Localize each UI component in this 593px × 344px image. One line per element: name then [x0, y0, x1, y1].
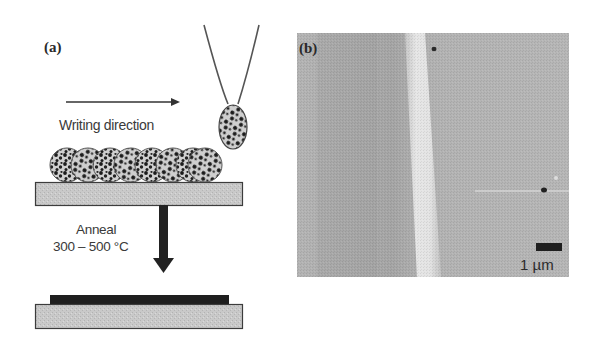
annealed-film — [50, 295, 229, 305]
anneal-arrow-icon — [153, 205, 174, 273]
writing-direction-label: Writing direction — [59, 118, 154, 132]
writing-direction-arrow-icon — [66, 98, 180, 106]
panel-b-micrograph — [297, 33, 569, 277]
ink-droplet-icon — [219, 105, 247, 149]
pen-tip-icon — [204, 25, 259, 104]
defect-dot — [541, 188, 547, 193]
deposited-particle-row — [50, 148, 222, 182]
scale-bar — [536, 243, 562, 251]
scale-bar-label: 1 µm — [520, 257, 554, 272]
anneal-temperature-label: 300 – 500 °C — [53, 240, 128, 254]
substrate-after — [36, 305, 243, 329]
anneal-label: Anneal — [76, 223, 116, 237]
panel-b-label: (b) — [299, 41, 317, 56]
defect-dot — [432, 47, 437, 51]
substrate-before — [36, 183, 243, 206]
figure: (a) — [0, 0, 593, 344]
